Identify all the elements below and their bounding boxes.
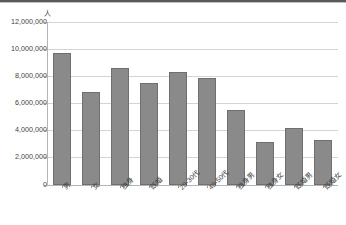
y-axis-tick-label: 0 (3, 181, 47, 189)
y-axis-tick-labels: 02,000,0004,000,0006,000,0008,000,00010,… (0, 22, 47, 185)
gridline (47, 76, 338, 77)
y-axis-tick-label: 2,000,000 (3, 153, 47, 161)
y-axis-tick-label: 4,000,000 (3, 126, 47, 134)
plot-area (47, 22, 338, 185)
bar (111, 68, 129, 185)
bar (53, 53, 71, 185)
bar (169, 72, 187, 185)
y-axis-tick-label: 8,000,000 (3, 72, 47, 80)
y-axis-tick-label: 12,000,000 (3, 18, 47, 26)
y-axis-line (47, 22, 48, 185)
x-axis-tick-labels: 男女独身既婚20-30代40-50代独身男独身女既婚男既婚女 (47, 186, 338, 225)
bar (140, 83, 158, 185)
bar (285, 128, 303, 185)
bar (82, 92, 100, 185)
y-axis-tick-label: 10,000,000 (3, 45, 47, 53)
y-axis-tick-label: 6,000,000 (3, 99, 47, 107)
chart-figure: 人 02,000,0004,000,0006,000,0008,000,0001… (0, 0, 346, 225)
top-border-rule-secondary (0, 2, 346, 3)
bar (198, 78, 216, 185)
gridline (47, 49, 338, 50)
gridline (47, 22, 338, 23)
